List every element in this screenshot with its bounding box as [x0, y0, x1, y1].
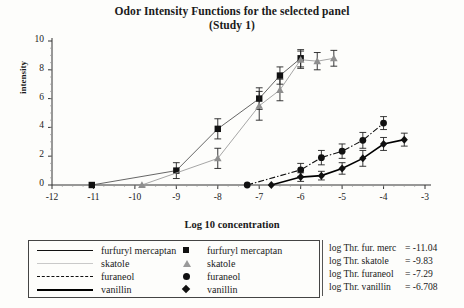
data-point-triangle	[330, 54, 338, 61]
x-tick-label: -6	[286, 192, 316, 202]
data-point-diamond	[380, 140, 387, 148]
chart-title: Odor Intensity Functions for the selecte…	[0, 4, 464, 32]
y-tick-label: 8	[22, 63, 44, 73]
threshold-box: log Thr. fur. merc= -11.04 log Thr. skat…	[322, 240, 463, 296]
x-tick-label: -3	[410, 192, 440, 202]
x-tick-label: -11	[78, 192, 108, 202]
threshold-name-1: log Thr. skatole	[329, 255, 405, 266]
threshold-value-1: -9.83	[413, 255, 433, 266]
threshold-name-2: log Thr. furaneol	[329, 268, 405, 279]
threshold-eq-2: =	[405, 268, 410, 279]
y-tick-label: 2	[22, 149, 44, 159]
legend-line-label-0: furfuryl mercaptan	[101, 244, 176, 257]
legend-line-key-3	[37, 283, 95, 296]
data-point-circle	[359, 137, 366, 144]
y-tick-label: 0	[22, 178, 44, 188]
data-point-diamond	[339, 164, 346, 172]
legend-box: furfuryl mercaptan furfuryl mercaptan sk…	[28, 240, 320, 298]
y-tick-label: 4	[22, 120, 44, 130]
legend-marker-label-2: furaneol	[207, 270, 240, 283]
legend-line-key-2	[37, 270, 95, 283]
data-point-triangle	[276, 86, 284, 93]
legend-line-key-0	[37, 244, 95, 257]
data-point-square	[277, 72, 283, 78]
data-point-circle	[297, 166, 304, 173]
threshold-line: log Thr. furaneol= -7.29	[329, 268, 433, 279]
legend-row: skatole skatole	[29, 257, 319, 270]
data-point-circle	[318, 154, 325, 161]
legend-line-label-2: furaneol	[101, 270, 134, 283]
y-tick-label: 6	[22, 92, 44, 102]
data-point-square	[89, 182, 95, 188]
data-point-diamond	[297, 173, 304, 181]
data-point-circle	[339, 148, 346, 155]
data-point-circle	[244, 182, 251, 189]
data-point-diamond	[359, 154, 366, 162]
legend-marker-key-0	[179, 244, 199, 257]
threshold-name-3: log Thr. vanillin	[329, 281, 405, 292]
legend-marker-key-2	[179, 270, 199, 283]
legend-line-label-1: skatole	[101, 257, 129, 270]
x-tick-label: -10	[120, 192, 150, 202]
data-point-circle	[380, 120, 387, 127]
threshold-value-2: -7.29	[413, 268, 433, 279]
series-line-1	[142, 58, 334, 185]
threshold-name-0: log Thr. fur. merc	[329, 242, 405, 253]
y-tick-label: 10	[22, 34, 44, 44]
data-point-square	[215, 126, 221, 132]
threshold-value-0: -11.04	[413, 242, 437, 253]
x-tick-label: -12	[37, 192, 67, 202]
data-point-triangle	[255, 102, 263, 109]
data-point-diamond	[318, 172, 325, 180]
legend-marker-key-3	[179, 283, 199, 296]
x-tick-label: -5	[327, 192, 357, 202]
legend-line-label-3: vanillin	[101, 283, 132, 296]
threshold-eq-1: =	[405, 255, 410, 266]
x-tick-label: -7	[244, 192, 274, 202]
legend-row: furaneol furaneol	[29, 270, 319, 283]
x-tick-label: -8	[203, 192, 233, 202]
legend-marker-label-3: vanillin	[207, 283, 238, 296]
legend-marker-key-1	[179, 257, 199, 270]
threshold-line: log Thr. skatole= -9.83	[329, 255, 433, 266]
legend-marker-label-0: furfuryl mercaptan	[207, 244, 282, 257]
legend-row: vanillin vanillin	[29, 283, 319, 296]
threshold-eq-3: =	[405, 281, 410, 292]
chart-title-main: Odor Intensity Functions for the selecte…	[115, 5, 350, 17]
legend-marker-label-1: skatole	[207, 257, 235, 270]
threshold-line: log Thr. fur. merc= -11.04	[329, 242, 437, 253]
x-axis-label: Log 10 concentration	[0, 219, 464, 230]
data-point-diamond	[268, 181, 275, 189]
data-point-diamond	[401, 136, 408, 144]
legend-line-key-1	[37, 257, 95, 270]
legend-row: furfuryl mercaptan furfuryl mercaptan	[29, 244, 319, 257]
threshold-line: log Thr. vanillin= -6.708	[329, 281, 438, 292]
threshold-eq-0: =	[405, 242, 410, 253]
threshold-value-3: -6.708	[413, 281, 438, 292]
x-tick-label: -4	[369, 192, 399, 202]
x-tick-label: -9	[161, 192, 191, 202]
